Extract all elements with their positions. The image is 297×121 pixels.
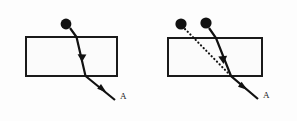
slab-rectangle-left [26,37,117,76]
figure-root: A A [0,0,297,121]
slab-rectangle-right [168,38,262,76]
source-ball-right-second [200,17,211,28]
source-ball-right-first [175,18,186,29]
point-label-a-right: A [263,90,270,100]
source-ball-left [61,19,72,30]
refraction-diagram: A A [0,0,297,121]
point-label-a-left: A [120,91,127,101]
